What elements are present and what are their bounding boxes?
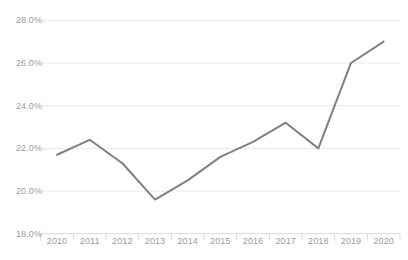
x-tick-label-2015: 2015 [210,236,230,246]
x-tick-label-2020: 2020 [373,236,393,246]
data-series-line [57,42,384,200]
line-chart: 28.0% 26.0% 24.0% 22.0% 20.0% 18.0% 2010… [0,0,408,260]
y-tick-label: 22.0% [16,143,42,153]
x-tick-label-2019: 2019 [341,236,361,246]
y-tick-label: 26.0% [16,58,42,68]
x-tick-label-2010: 2010 [47,236,67,246]
x-tick-label-2013: 2013 [145,236,165,246]
y-tick-label: 28.0% [16,15,42,25]
y-tick-label: 18.0% [16,229,42,239]
x-tick-label-2011: 2011 [80,236,100,246]
x-tick-label-2014: 2014 [177,236,197,246]
gridlines [41,20,400,191]
x-tick-label-2012: 2012 [112,236,132,246]
chart-plot-area [0,0,408,260]
x-tick-label-2018: 2018 [308,236,328,246]
y-tick-label: 24.0% [16,101,42,111]
x-tick-label-2017: 2017 [275,236,295,246]
y-tick-label: 20.0% [16,186,42,196]
x-tick-label-2016: 2016 [243,236,263,246]
